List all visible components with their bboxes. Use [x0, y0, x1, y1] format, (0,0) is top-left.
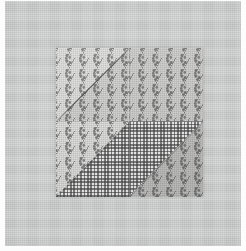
margin-strip-top: [0, 0, 246, 1]
horizontal-center-seam: [56, 121, 203, 122]
quilt-block: [56, 48, 203, 197]
patch-top-left: [56, 48, 129, 121]
patch-top-right: [129, 48, 203, 121]
fabric-floral-square: [129, 48, 203, 121]
patch-bottom-left: [56, 121, 129, 197]
vertical-center-seam: [129, 48, 130, 197]
margin-strip-bottom: [0, 246, 246, 251]
patch-bottom-right: [129, 121, 203, 197]
margin-strip-right: [241, 0, 246, 251]
margin-strip-left: [0, 0, 5, 251]
quilt-photograph: Grayscale photograph of a four-patch qui…: [0, 0, 246, 251]
